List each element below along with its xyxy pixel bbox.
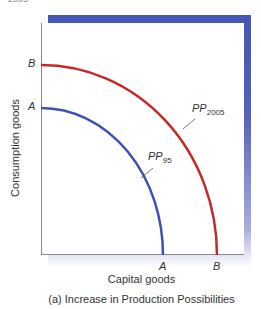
y-intercept-label-a: A (28, 100, 35, 112)
pp2005-label-base: PP (192, 102, 207, 114)
x-axis-label: Capital goods (0, 273, 261, 285)
y-axis-label: Consumption goods (9, 98, 21, 198)
y-intercept-label-b: B (28, 57, 35, 69)
chart-caption: (a) Increase in Production Possibilities (0, 293, 261, 305)
pp95-curve (41, 108, 163, 255)
pp95-label-sub: 95 (163, 156, 172, 165)
pp95-label-base: PP (148, 150, 163, 162)
frontier-curves (0, 0, 261, 309)
pp2005-label-sub: 2005 (207, 108, 225, 117)
x-intercept-label-b: B (213, 260, 220, 272)
x-intercept-label-a: A (159, 260, 166, 272)
pp95-label: PP95 (148, 150, 172, 165)
pp2005-curve (41, 65, 217, 255)
pp2005-leader-line (183, 119, 195, 129)
pp2005-label: PP2005 (192, 102, 224, 117)
